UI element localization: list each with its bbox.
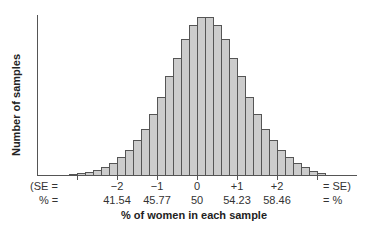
histogram-bar: [286, 158, 294, 176]
histogram-bar: [158, 98, 166, 176]
pct-row-label-right: = %: [323, 194, 342, 206]
histogram-bar: [118, 158, 126, 176]
pct-tick-label: 50: [191, 194, 203, 206]
se-tick-label: 0: [194, 180, 200, 192]
se-tick-label: +1: [231, 180, 244, 192]
histogram-bar: [262, 130, 270, 176]
pct-tick-label: 58.46: [263, 194, 291, 206]
se-row-label-left: (SE =: [30, 180, 58, 192]
histogram-bar: [270, 141, 278, 176]
y-axis-label-text: Number of samples: [10, 54, 22, 156]
histogram-bar: [126, 151, 134, 176]
histogram-bar: [310, 172, 318, 176]
histogram-bar: [150, 115, 158, 176]
histogram-bar: [198, 18, 206, 176]
pct-tick-label: 54.23: [223, 194, 251, 206]
histogram-bar: [94, 171, 102, 176]
histogram-bar: [238, 77, 246, 176]
pct-tick-label: 45.77: [143, 194, 171, 206]
histogram-bar: [302, 168, 310, 176]
histogram-bar: [134, 141, 142, 176]
se-tick-label: −1: [151, 180, 164, 192]
histogram-bar: [110, 164, 118, 176]
pct-row-label-left: % =: [39, 194, 58, 206]
histogram-bar: [174, 59, 182, 176]
se-tick-label: +2: [271, 180, 284, 192]
y-axis-label: Number of samples: [6, 40, 26, 170]
se-row-label-right: = SE): [323, 180, 351, 192]
histogram-bar: [142, 130, 150, 176]
histogram-bar: [294, 164, 302, 176]
histogram-bar: [246, 98, 254, 176]
histogram-bar: [278, 151, 286, 176]
histogram-bar: [230, 59, 238, 176]
histogram-chart: Number of samples (SE = % = = SE) = % −2…: [0, 0, 372, 235]
x-axis-label: % of women in each sample: [0, 209, 372, 221]
histogram-bar: [254, 115, 262, 176]
histogram-bar: [222, 40, 230, 176]
histogram-bar: [102, 168, 110, 176]
pct-tick-label: 41.54: [103, 194, 131, 206]
se-tick-label: −2: [111, 180, 124, 192]
histogram-bar: [166, 77, 174, 176]
histogram-bar: [206, 18, 214, 176]
histogram-bar: [190, 26, 198, 176]
histogram-bar: [182, 40, 190, 176]
histogram-bar: [214, 26, 222, 176]
